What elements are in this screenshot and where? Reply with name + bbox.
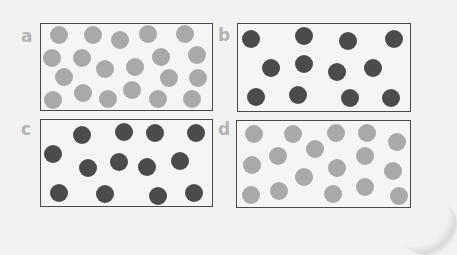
particle bbox=[269, 147, 287, 165]
particle bbox=[79, 159, 97, 177]
particle bbox=[328, 63, 346, 81]
particle bbox=[358, 124, 376, 142]
particle bbox=[384, 162, 402, 180]
particle bbox=[242, 30, 260, 48]
particle bbox=[176, 25, 194, 43]
particle bbox=[364, 59, 382, 77]
particle bbox=[295, 168, 313, 186]
particle bbox=[385, 30, 403, 48]
particle bbox=[306, 140, 324, 158]
panel-c-particles bbox=[44, 123, 205, 205]
particle bbox=[295, 55, 313, 73]
panel-b-particles bbox=[242, 27, 403, 107]
particle bbox=[73, 49, 91, 67]
particle bbox=[110, 153, 128, 171]
particle bbox=[96, 185, 114, 203]
particle bbox=[289, 86, 307, 104]
particle bbox=[341, 89, 359, 107]
particle bbox=[295, 27, 313, 45]
particle bbox=[171, 152, 189, 170]
particle bbox=[84, 26, 102, 44]
page-curl-shadow bbox=[397, 195, 457, 255]
particle bbox=[55, 68, 73, 86]
particle bbox=[123, 81, 141, 99]
particle bbox=[138, 158, 156, 176]
particle bbox=[183, 90, 201, 108]
particle bbox=[243, 156, 261, 174]
particle bbox=[139, 25, 157, 43]
particle bbox=[262, 59, 280, 77]
particle bbox=[187, 124, 205, 142]
particle bbox=[185, 184, 203, 202]
particle bbox=[44, 145, 62, 163]
particle bbox=[245, 125, 263, 143]
particle bbox=[324, 185, 342, 203]
particle bbox=[50, 184, 68, 202]
particle bbox=[356, 178, 374, 196]
particle bbox=[146, 124, 164, 142]
particle bbox=[111, 31, 129, 49]
particle bbox=[149, 90, 167, 108]
particle bbox=[388, 133, 406, 151]
particle bbox=[44, 91, 62, 109]
particle bbox=[50, 26, 68, 44]
particle bbox=[188, 46, 206, 64]
particle bbox=[189, 69, 207, 87]
particle bbox=[115, 123, 133, 141]
particle bbox=[99, 90, 117, 108]
particle bbox=[126, 58, 144, 76]
particle bbox=[73, 126, 91, 144]
particle bbox=[327, 124, 345, 142]
particle bbox=[328, 159, 346, 177]
particle bbox=[270, 182, 288, 200]
particle bbox=[242, 186, 260, 204]
particle bbox=[152, 48, 170, 66]
particle bbox=[149, 187, 167, 205]
particle bbox=[43, 49, 61, 67]
particle bbox=[339, 32, 357, 50]
panel-a-particles bbox=[43, 25, 207, 109]
particle bbox=[284, 125, 302, 143]
particle bbox=[247, 88, 265, 106]
particle bbox=[160, 69, 178, 87]
particle bbox=[382, 89, 400, 107]
particle bbox=[74, 84, 92, 102]
panel-d-particles bbox=[242, 124, 408, 205]
particle bbox=[96, 60, 114, 78]
particle bbox=[356, 147, 374, 165]
